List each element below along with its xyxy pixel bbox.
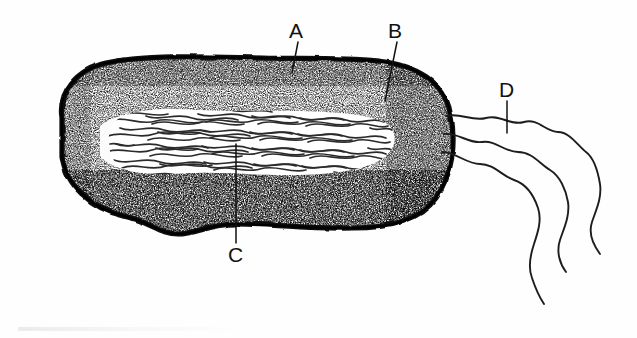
label-a: A: [289, 20, 303, 41]
scan-artifact: [18, 327, 248, 331]
bacterial-cell-body: [45, 50, 460, 242]
bacterium-diagram: [0, 0, 637, 338]
label-c: C: [228, 244, 243, 265]
label-b: B: [388, 20, 402, 41]
figure-canvas: A B C D: [0, 0, 637, 338]
flagellum-3: [442, 152, 544, 304]
flagellum-2: [444, 134, 568, 272]
label-d: D: [499, 79, 514, 100]
flagella-group: [442, 115, 600, 304]
